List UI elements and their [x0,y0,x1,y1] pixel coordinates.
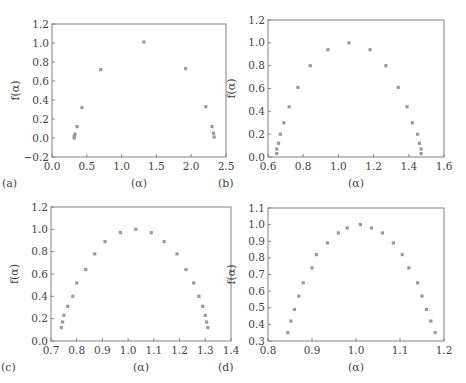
data-point [326,48,329,51]
multifractal-spectrum-figure: 0.00.51.01.52.02.5−0.20.00.20.40.60.81.0… [0,0,466,383]
x-tick-label: 1.0 [113,160,130,172]
data-point [397,86,400,89]
data-point [392,241,395,244]
data-point [73,133,76,136]
data-point [197,295,200,298]
y-tick-label: 0.6 [248,82,265,94]
y-axis-label: f(α) [225,264,238,284]
data-point [175,252,178,255]
data-point [119,231,122,234]
data-point [84,268,87,271]
data-point [62,314,65,317]
x-tick-label: 0.9 [304,344,321,356]
data-point [293,308,296,311]
panel-a: 0.00.51.01.52.02.5−0.20.00.20.40.60.81.0… [2,18,234,191]
data-point [297,295,300,298]
y-tick-label: 0.4 [248,318,265,330]
y-tick-label: 0.2 [32,113,49,125]
data-point [205,320,208,323]
y-tick-label: 0.0 [248,151,265,163]
data-points [286,223,437,334]
data-point [418,142,421,145]
y-tick-label: 0.6 [32,75,49,87]
data-point [150,231,153,234]
data-point [61,320,64,323]
y-axis-label: f(α) [9,80,22,100]
data-point [289,319,292,322]
y-tick-label: 1.1 [248,202,265,214]
data-point [184,67,187,70]
data-point [347,41,350,44]
data-point [405,105,408,108]
y-tick-label: −0.2 [24,151,50,163]
x-axis-label: (α) [348,361,364,374]
data-point [163,240,166,243]
data-point [359,223,362,226]
data-point [275,152,278,155]
x-tick-label: 1.2 [436,344,453,356]
data-points [275,41,423,155]
y-tick-label: 0.8 [31,245,48,257]
data-point [296,86,299,89]
y-tick-label: 0.4 [32,94,49,106]
panel-label: (c) [1,361,16,374]
x-tick-label: 1.1 [146,344,163,356]
data-point [384,64,387,67]
x-axis-label: (α) [131,177,147,190]
plot-frame [52,24,226,157]
data-point [277,142,280,145]
data-point [368,48,371,51]
plot-frame [268,20,444,157]
y-tick-label: 0.0 [31,335,48,347]
y-tick-label: 1.2 [32,18,49,30]
y-tick-label: 0.5 [248,301,265,313]
data-point [286,331,289,334]
data-point [370,226,373,229]
y-tick-label: 1.2 [31,201,48,213]
data-point [425,308,428,311]
data-point [99,68,102,71]
data-point [279,133,282,136]
data-point [416,133,419,136]
x-tick-label: 2.5 [218,160,235,172]
x-tick-label: 1.0 [348,344,365,356]
x-tick-label: 1.0 [330,160,347,172]
data-point [75,125,78,128]
y-tick-label: 0.4 [248,105,265,117]
data-point [346,226,349,229]
data-point [288,105,291,108]
data-point [80,106,83,109]
data-point [75,281,78,284]
data-point [204,105,207,108]
y-tick-label: 0.6 [248,285,265,297]
data-point [275,147,278,150]
y-tick-label: 0.2 [31,312,48,324]
x-tick-label: 1.2 [365,160,382,172]
x-tick-label: 0.5 [78,160,95,172]
data-point [420,295,423,298]
x-tick-label: 1.4 [400,160,417,172]
data-point [213,135,216,138]
x-axis-label: (α) [133,361,149,374]
y-tick-label: 1.0 [248,218,265,230]
y-tick-label: 0.9 [248,235,265,247]
data-point [326,241,329,244]
x-tick-label: 0.9 [94,344,111,356]
x-tick-label: 1.5 [148,160,165,172]
x-tick-label: 1.4 [223,344,240,356]
y-tick-label: 0.8 [248,251,265,263]
x-tick-label: 1.3 [197,344,214,356]
data-point [210,125,213,128]
panel-c: 0.70.80.91.01.11.21.31.40.00.20.40.60.81… [1,201,240,375]
data-point [201,305,204,308]
data-point [212,132,215,135]
data-points [73,40,216,139]
y-tick-label: 1.0 [31,223,48,235]
plot-frame [268,208,444,341]
data-point [66,305,69,308]
y-tick-label: 1.0 [248,36,265,48]
panel-d: 0.80.91.01.11.20.30.40.50.60.70.80.91.01… [218,202,452,375]
data-point [401,253,404,256]
data-point [381,231,384,234]
x-tick-label: 2.0 [183,160,200,172]
